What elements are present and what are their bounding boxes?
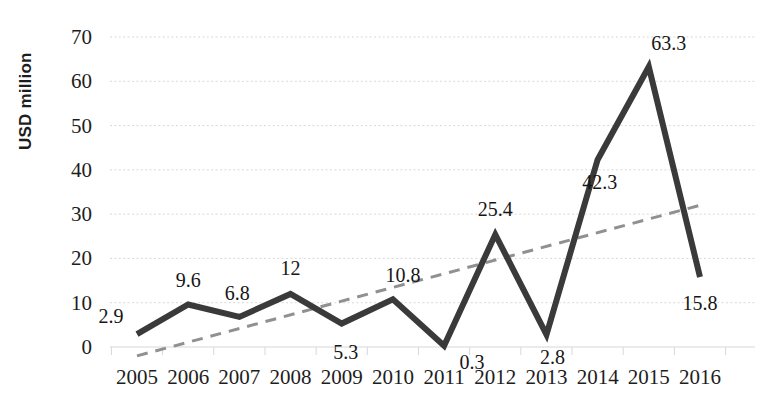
x-axis-tick-label: 2010 <box>372 365 414 390</box>
x-axis-tick-label: 2011 <box>423 365 464 390</box>
data-point-label: 15.8 <box>683 292 718 315</box>
data-point-label: 42.3 <box>582 170 617 193</box>
x-axis-tick-label: 2014 <box>577 365 619 390</box>
x-axis-tick-label: 2013 <box>525 365 567 390</box>
x-axis-tick-label: 2015 <box>628 365 670 390</box>
data-line <box>137 67 700 346</box>
x-axis-tick-label: 2009 <box>321 365 363 390</box>
data-point-label: 5.3 <box>333 340 358 363</box>
data-point-label: 63.3 <box>651 31 686 54</box>
gridlines <box>110 37 755 347</box>
data-point-label: 2.8 <box>540 345 565 368</box>
data-point-label: 25.4 <box>478 197 513 220</box>
x-axis-tick-label: 2016 <box>679 365 721 390</box>
x-axis-tick-label: 2007 <box>218 365 260 390</box>
plot-area <box>0 0 763 409</box>
data-point-label: 12 <box>281 256 301 279</box>
x-axis-tick-label: 2008 <box>270 365 312 390</box>
data-point-label: 9.6 <box>176 269 201 292</box>
x-axis-tick-label: 2005 <box>116 365 158 390</box>
data-point-label: 6.8 <box>225 281 250 304</box>
line-chart: USD million 010203040506070 200520062007… <box>0 0 763 409</box>
data-point-label: 10.8 <box>385 264 420 287</box>
x-axis-tick-label: 2006 <box>167 365 209 390</box>
x-axis-tick-marks <box>111 347 725 355</box>
data-point-label: 0.3 <box>460 350 485 373</box>
data-point-label: 2.9 <box>99 305 124 328</box>
